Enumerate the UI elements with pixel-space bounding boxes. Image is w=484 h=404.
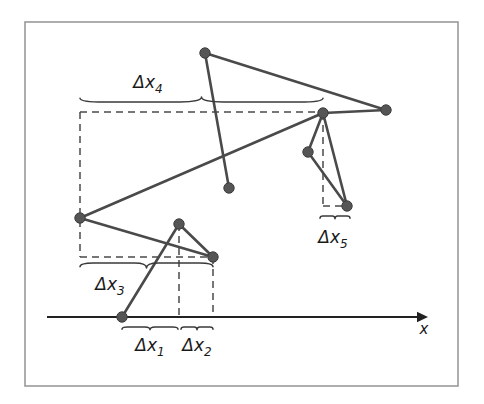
node-mid-lower bbox=[224, 183, 234, 193]
node-top-left-apex bbox=[200, 48, 210, 58]
node-lower-right bbox=[208, 252, 218, 262]
node-left-vertex bbox=[75, 213, 85, 223]
figure-container: Δx1Δx2Δx3Δx4Δx5x bbox=[0, 0, 484, 404]
node-lower-peak bbox=[174, 219, 184, 229]
x-axis-label: x bbox=[419, 320, 429, 338]
delta-x-symbol: Δx bbox=[131, 72, 156, 92]
delta-x-subscript: 4 bbox=[155, 82, 163, 96]
delta-x-subscript: 3 bbox=[117, 284, 125, 298]
delta-x-symbol: Δx bbox=[316, 227, 341, 247]
node-axis-origin-point bbox=[117, 312, 127, 322]
delta-x-subscript: 5 bbox=[340, 237, 348, 251]
node-upper-right-junction bbox=[318, 108, 328, 118]
displacement-increment-diagram: Δx1Δx2Δx3Δx4Δx5x bbox=[0, 0, 484, 404]
node-right-middle bbox=[303, 147, 313, 157]
node-far-right-apex bbox=[381, 105, 391, 115]
delta-x-symbol: Δx bbox=[133, 335, 158, 355]
delta-x-symbol: Δx bbox=[93, 274, 118, 294]
delta-x-subscript: 2 bbox=[204, 345, 212, 359]
figure-background bbox=[0, 0, 484, 404]
delta-x-symbol: Δx bbox=[180, 335, 205, 355]
node-right-bottom bbox=[342, 201, 352, 211]
delta-x-subscript: 1 bbox=[157, 345, 165, 359]
